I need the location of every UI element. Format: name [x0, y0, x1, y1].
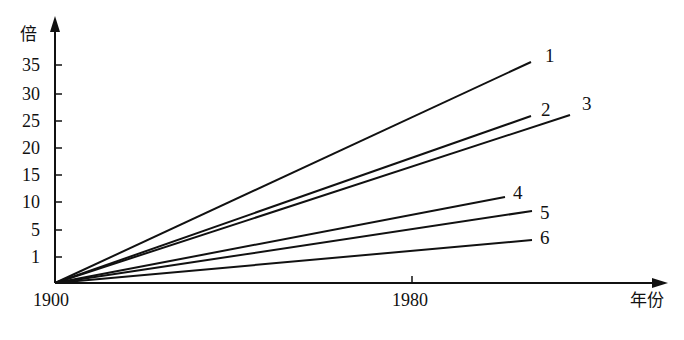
series-label-4: 4 [513, 182, 523, 203]
y-tick-label: 15 [22, 165, 40, 185]
x-tick-label-1980: 1980 [392, 290, 428, 310]
y-tick-label: 10 [22, 192, 40, 212]
series-label-3: 3 [582, 93, 592, 114]
y-axis: 倍 35302520151051 [20, 16, 62, 283]
series-line-2 [55, 116, 531, 283]
y-tick-label: 35 [22, 55, 40, 75]
x-axis: 1900 1980 年份 [33, 276, 668, 310]
line-chart: 倍 35302520151051 1900 1980 年份 123456 [0, 0, 684, 340]
series-label-6: 6 [540, 227, 550, 248]
series-label-5: 5 [540, 202, 550, 223]
series-line-1 [55, 62, 531, 283]
x-tick-label-1900: 1900 [33, 290, 69, 310]
y-tick-label: 20 [22, 138, 40, 158]
y-tick-label: 25 [22, 111, 40, 131]
series-label-2: 2 [541, 99, 551, 120]
y-tick-label: 30 [22, 84, 40, 104]
x-axis-title: 年份 [630, 290, 664, 310]
y-tick-label: 1 [31, 247, 40, 267]
y-axis-arrow-icon [50, 16, 60, 32]
series-label-1: 1 [545, 45, 555, 66]
x-axis-arrow-icon [652, 278, 668, 288]
series-lines: 123456 [55, 45, 592, 283]
y-tick-label: 5 [31, 220, 40, 240]
y-axis-title: 倍 [20, 24, 37, 44]
